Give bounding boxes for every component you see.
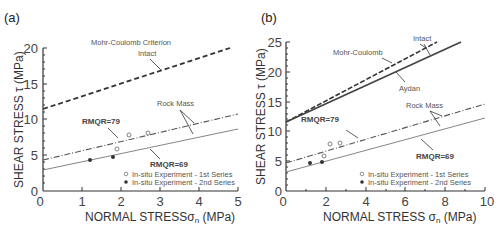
svg-text:6: 6 bbox=[401, 194, 408, 209]
svg-text:3: 3 bbox=[156, 194, 163, 209]
annotation-mohr-coulomb-a: Mohr-Coulomb Criterion bbox=[91, 38, 171, 47]
arrow-aydan-b bbox=[396, 72, 405, 82]
svg-text:2: 2 bbox=[117, 194, 124, 209]
svg-text:4: 4 bbox=[362, 194, 369, 209]
legend-b: In-situ Experiment - 1st Series In-situ … bbox=[360, 170, 471, 187]
annotation-rockmass-a: Rock Mass bbox=[157, 99, 194, 108]
y-axis-label-a: SHEAR STRESS τ (MPa) bbox=[12, 51, 26, 188]
annotation-rmqr79-a: RMQR=79 bbox=[82, 117, 121, 126]
line-rmqr69-b bbox=[286, 118, 485, 172]
annotation-aydan-b: Aydan bbox=[399, 84, 420, 93]
svg-text:2: 2 bbox=[322, 194, 329, 209]
series-1st-a bbox=[115, 131, 150, 151]
chart-panel-a: (a) 0 5 10 15 20 0 1 2 bbox=[4, 10, 242, 225]
annotation-mohr-coulomb-b: Mohr-Coulomb bbox=[333, 48, 383, 57]
x-axis-label-a: NORMAL STRESSσn (MPa) bbox=[85, 210, 235, 225]
svg-text:4: 4 bbox=[195, 194, 202, 209]
x-tick-labels-a: 0 1 2 3 4 5 bbox=[36, 194, 241, 209]
svg-text:10: 10 bbox=[480, 194, 494, 209]
y-axis-label-b: SHEAR STRESS τ (MPa) bbox=[254, 48, 268, 185]
arrow-rmqr79-b bbox=[346, 130, 358, 138]
legend-2nd-series-b: In-situ Experiment - 2nd Series bbox=[368, 178, 471, 187]
arrow-mohr-coulomb-b bbox=[382, 58, 392, 63]
line-rmqr79-b bbox=[286, 104, 485, 163]
svg-text:0: 0 bbox=[36, 194, 43, 209]
arrow-rmqr69-a bbox=[150, 149, 160, 159]
arrow-rmqr79-a bbox=[108, 128, 118, 138]
y-tick-labels-b: 0 5 10 15 20 25 bbox=[268, 35, 282, 199]
line-intact-a bbox=[43, 48, 230, 109]
arrow-rockmass-69-a bbox=[180, 110, 193, 134]
svg-text:5: 5 bbox=[31, 148, 38, 163]
svg-text:10: 10 bbox=[268, 124, 282, 139]
svg-text:5: 5 bbox=[234, 194, 241, 209]
panel-label-b: (b) bbox=[261, 10, 277, 25]
panel-label-a: (a) bbox=[4, 10, 20, 25]
svg-text:1: 1 bbox=[78, 194, 85, 209]
legend-2nd-series-a: In-situ Experiment - 2nd Series bbox=[132, 178, 235, 187]
svg-text:15: 15 bbox=[268, 95, 282, 110]
svg-text:5: 5 bbox=[275, 154, 282, 169]
svg-text:8: 8 bbox=[441, 194, 448, 209]
svg-text:20: 20 bbox=[268, 65, 282, 80]
annotation-intact-b: Intact bbox=[413, 34, 432, 43]
annotation-intact-a: Intact bbox=[138, 49, 157, 58]
legend-a: In-situ Experiment - 1st Series In-situ … bbox=[124, 170, 235, 187]
arrow-rockmass-79-a bbox=[180, 110, 194, 123]
arrow-rmqr69-b bbox=[421, 139, 433, 150]
svg-text:0: 0 bbox=[279, 194, 286, 209]
figure: (a) 0 5 10 15 20 0 1 2 bbox=[0, 0, 504, 231]
annotation-rmqr69-a: RMQR=69 bbox=[150, 160, 189, 169]
x-tick-labels-b: 0 2 4 6 8 10 bbox=[279, 194, 494, 209]
annotation-rmqr79-b: RMQR=79 bbox=[301, 115, 340, 124]
arrow-intact-a bbox=[150, 59, 161, 70]
annotation-rmqr69-b: RMQR=69 bbox=[416, 152, 455, 161]
line-rmqr69-a bbox=[43, 129, 238, 170]
svg-text:25: 25 bbox=[268, 35, 282, 50]
annotation-rockmass-b: Rock Mass bbox=[406, 101, 443, 110]
chart-panel-b: (b) 0 5 10 15 20 25 bbox=[254, 10, 494, 225]
line-rmqr79-a bbox=[43, 114, 238, 160]
x-axis-label-b: NORMAL STRESS σn (MPa) bbox=[323, 210, 476, 225]
